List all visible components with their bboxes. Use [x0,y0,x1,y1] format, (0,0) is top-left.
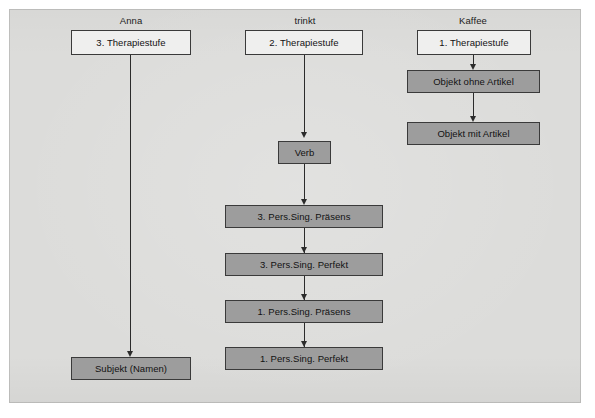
node-kaffee-objekt-ohne-artikel[interactable]: Objekt ohne Artikel [407,70,540,93]
connector-anna-stufe-to-subjekt [130,55,131,354]
connector-trinkt-stufe-to-verb [304,55,305,135]
node-trinkt-3-pers-sing-perfekt[interactable]: 3. Pers.Sing. Perfekt [225,253,383,276]
node-kaffee-therapiestufe-1[interactable]: 1. Therapiestufe [417,30,531,55]
node-trinkt-1-pers-sing-perfekt[interactable]: 1. Pers.Sing. Perfekt [225,347,383,370]
connector-objekt-ohne-to-objekt-mit [473,93,474,117]
node-anna-subjekt-namen[interactable]: Subjekt (Namen) [71,357,191,380]
node-trinkt-therapiestufe-2[interactable]: 2. Therapiestufe [245,30,363,55]
node-anna-therapiestufe-3[interactable]: 3. Therapiestufe [71,30,191,55]
column-header-kaffee: Kaffee [413,15,533,26]
column-header-anna: Anna [71,15,191,26]
diagram-page: Anna trinkt Kaffee 3. Therapiestufe Subj… [0,0,595,418]
node-trinkt-3-pers-sing-praesens[interactable]: 3. Pers.Sing. Präsens [225,205,383,228]
column-header-trinkt: trinkt [245,15,365,26]
connector-verb-to-3sg-praesens [304,164,305,201]
node-trinkt-verb[interactable]: Verb [278,141,331,164]
node-trinkt-1-pers-sing-praesens[interactable]: 1. Pers.Sing. Präsens [225,300,383,323]
arrowhead-trinkt-verb [301,132,307,138]
node-kaffee-objekt-mit-artikel[interactable]: Objekt mit Artikel [407,122,540,145]
paper-sheet: Anna trinkt Kaffee 3. Therapiestufe Subj… [9,9,581,403]
